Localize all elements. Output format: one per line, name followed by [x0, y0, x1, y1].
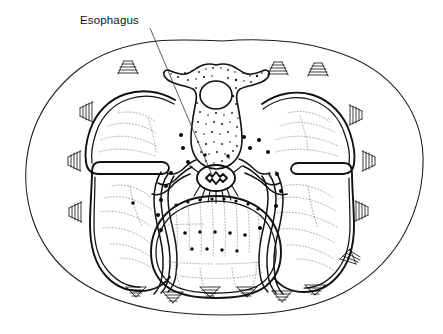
thorax-cross-section-drawing: Esophagus	[0, 0, 443, 334]
left-lung-vessel-dot	[131, 201, 135, 205]
esophagus-label: Esophagus	[80, 14, 139, 26]
figure-background	[0, 0, 443, 334]
anatomical-figure: Esophagus	[0, 0, 443, 334]
